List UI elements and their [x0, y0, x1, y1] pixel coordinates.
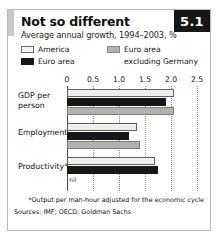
row-label-productivity: Productivity*: [18, 162, 68, 172]
bar-gdp-euro-ex-germany: [67, 107, 174, 115]
bar-employment-euro-area: [67, 132, 129, 140]
xtick-label-3: 1.5: [139, 75, 151, 84]
bar-productivity-euro-area: [67, 166, 158, 174]
nil-annotation: nil: [69, 176, 76, 183]
xtick-label-2: 1.0: [113, 75, 125, 84]
chart-footnote: *Output per man-hour adjusted for the ec…: [28, 196, 204, 204]
row-label-employment: Employment: [18, 128, 67, 138]
xtick-label-4: 2.0: [165, 75, 177, 84]
gridline-2.5: [197, 86, 199, 191]
xtick-label-0: 0: [65, 75, 70, 84]
row-label-gdp-per-person: GDP perperson: [18, 91, 50, 110]
xtick-label-5: 2.5: [191, 75, 203, 84]
gridline-2.0: [171, 86, 173, 191]
bar-gdp-euro-area: [67, 98, 166, 106]
chart-sources: Sources: IMF; OECD; Goldman Sachs: [14, 208, 131, 216]
bar-productivity-america: [67, 157, 155, 165]
xtick-label-1: 0.5: [87, 75, 99, 84]
bar-gdp-america: [67, 89, 174, 97]
bar-employment-america: [67, 123, 137, 131]
chart-frame: 5.1 Not so different Average annual grow…: [7, 9, 211, 231]
bar-employment-euro-ex-germany: [67, 141, 140, 149]
